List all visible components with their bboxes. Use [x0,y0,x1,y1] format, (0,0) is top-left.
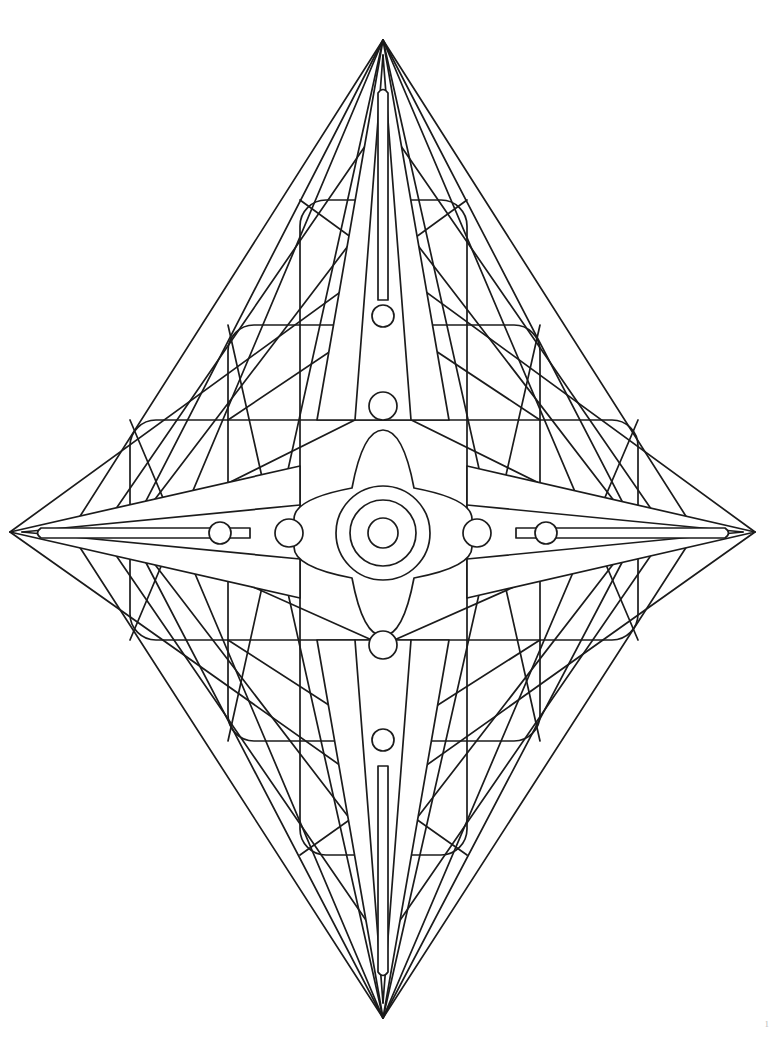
dot-top-inner [369,392,397,420]
center-circle-inner [368,518,398,548]
dot-bottom-inner [369,631,397,659]
dot-top-outer [372,305,394,327]
mandala-artwork [0,0,781,1051]
dot-bottom-outer [372,729,394,751]
dot-left-outer [209,522,231,544]
page-number: 1 [765,1019,770,1029]
dot-left-inner [275,519,303,547]
dot-right-inner [463,519,491,547]
bottom-needle [378,766,388,976]
center-circles-group [336,486,430,580]
dot-right-outer [535,522,557,544]
top-needle [378,90,388,301]
coloring-page-canvas: 1 [0,0,781,1051]
